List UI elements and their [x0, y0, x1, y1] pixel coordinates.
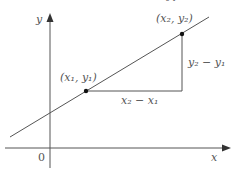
point-1: [84, 89, 88, 93]
origin-label: 0: [38, 151, 45, 164]
point-2-label: (x₂, y₂): [156, 12, 193, 25]
rise-label: y₂ − y₁: [188, 56, 225, 69]
run-label: x₂ − x₁: [121, 94, 158, 107]
top-partial-text: ₂ ₁: [166, 0, 176, 3]
point-1-label: (x₁, y₁): [60, 71, 97, 84]
x-axis-label: x: [211, 151, 217, 164]
y-axis-arrow-icon: [47, 13, 54, 22]
x-axis-arrow-icon: [222, 145, 231, 152]
point-2: [180, 32, 184, 36]
diagram-graphics: [0, 0, 240, 177]
slope-diagram: y x 0 (x₁, y₁) (x₂, y₂) x₂ − x₁ y₂ − y₁ …: [0, 0, 240, 177]
y-axis-label: y: [36, 13, 42, 26]
straight-line: [10, 17, 209, 137]
